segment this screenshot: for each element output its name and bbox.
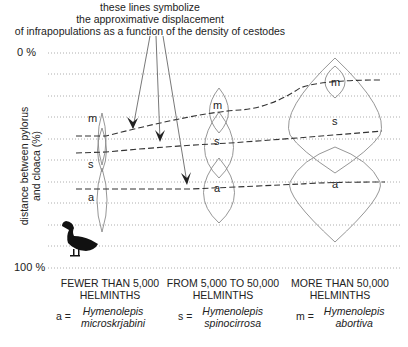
high-a-shape [290,147,381,242]
legend-key: m = [296,310,314,322]
category-low-line-1: FEWER THAN 5,000 [45,277,175,289]
y-axis-label-line-1: distance between pylorus [18,86,30,246]
category-high-line-2: HELMINTHS [275,289,405,301]
legend-item-s: s = Hymenolepis spinocirrosa [178,305,263,329]
low-m-label: m [88,112,97,124]
category-low-line-2: HELMINTHS [45,289,175,301]
s-displacement-line [76,131,382,153]
legend-item-a: a = Hymenolepis microskrjabini [56,305,145,329]
legend-genus: Hymenolepis [202,305,263,317]
high-s-label: s [332,115,338,127]
duck-silhouette-icon [62,221,98,257]
legend-genus: Hymenolepis [324,305,385,317]
category-mid-line-1: FROM 5,000 TO 50,000 [158,277,288,289]
mid-s-label: s [214,135,220,147]
low-a-shape [97,168,107,232]
legend-item-m: m = Hymenolepis abortiva [296,305,385,329]
arrowhead-icon [181,172,191,185]
pointer-arrows [133,36,187,183]
low-a-label: a [88,191,94,203]
legend-species: Hymenolepis abortiva [324,305,385,329]
high-a-label: a [332,178,338,190]
arrowhead-icon [127,117,138,129]
a-displacement-line [76,182,385,189]
legend-key: a = [56,310,71,322]
legend-species-name: abortiva [324,317,385,329]
mid-m-label: m [213,99,222,111]
mid-a-label: a [214,182,220,194]
legend-species: Hymenolepis microskrjabini [81,305,145,329]
legend-genus: Hymenolepis [81,305,145,317]
legend-key: s = [178,310,192,322]
category-high-line-1: MORE THAN 50,000 [275,277,405,289]
legend-species: Hymenolepis spinocirrosa [202,305,263,329]
y-axis-label-line-2: and cloaca (%) [30,86,42,246]
category-low: FEWER THAN 5,000 HELMINTHS [45,277,175,301]
legend-species-name: microskrjabini [81,317,145,329]
y-axis-label: distance between pylorus and cloaca (%) [18,86,42,246]
low-s-label: s [88,158,94,170]
y-tick-top: 0 % [17,46,36,58]
category-high: MORE THAN 50,000 HELMINTHS [275,277,405,301]
displacement-lines [76,80,385,189]
legend-species-name: spinocirrosa [202,317,263,329]
category-mid: FROM 5,000 TO 50,000 HELMINTHS [158,277,288,301]
category-mid-line-2: HELMINTHS [158,289,288,301]
y-tick-bottom: 100 % [14,261,45,273]
high-m-label: m [331,76,340,88]
low-density-shapes [97,113,107,232]
